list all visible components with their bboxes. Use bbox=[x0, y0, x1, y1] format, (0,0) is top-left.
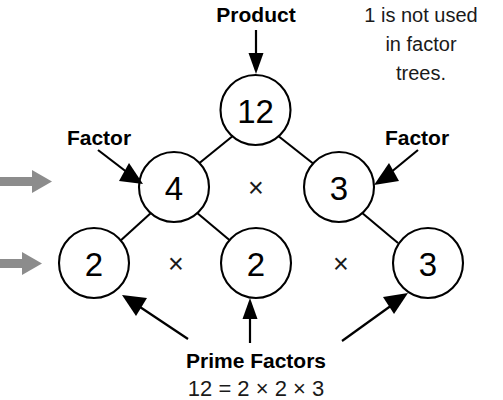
branch-four-to-first-two bbox=[119, 212, 152, 242]
note-line-1: 1 is not used bbox=[364, 4, 477, 26]
factor-tree-diagram: 12 4 3 × 2 2 3 × × Product bbox=[0, 0, 503, 400]
node-level2-left-value: 4 bbox=[165, 170, 183, 207]
multiplication-symbol-level2: × bbox=[248, 173, 264, 203]
factorization-equation: 12 = 2 × 2 × 3 bbox=[188, 376, 324, 400]
node-level3-first: 2 bbox=[59, 228, 129, 298]
node-level2-right-value: 3 bbox=[330, 170, 348, 207]
branch-root-to-right bbox=[277, 135, 315, 165]
prime-factors-label: Prime Factors bbox=[186, 349, 326, 372]
gray-arrow-row-two bbox=[0, 170, 52, 193]
factor-right-pointer-arrow bbox=[374, 150, 418, 185]
node-level3-third-value: 3 bbox=[419, 246, 437, 283]
factor-right-label: Factor bbox=[385, 126, 449, 149]
node-level3-second-value: 2 bbox=[247, 246, 265, 283]
diagram-canvas: 12 4 3 × 2 2 3 × × Product bbox=[0, 0, 503, 400]
multiplication-symbol-level3-left: × bbox=[168, 249, 184, 279]
node-root: 12 bbox=[221, 75, 291, 145]
note-line-3: trees. bbox=[396, 62, 446, 84]
product-label: Product bbox=[216, 3, 295, 26]
branch-four-to-second-two bbox=[196, 212, 233, 243]
node-level2-left: 4 bbox=[139, 152, 209, 222]
branch-root-to-left bbox=[197, 135, 234, 165]
multiplication-symbol-level3-right: × bbox=[333, 249, 349, 279]
factor-left-pointer-arrow bbox=[98, 150, 143, 184]
node-level3-second: 2 bbox=[221, 228, 291, 298]
gray-arrow-row-three bbox=[0, 252, 42, 275]
prime-factor-pointer-left bbox=[122, 295, 188, 339]
factor-left-label: Factor bbox=[67, 126, 131, 149]
note-line-2: in factor bbox=[385, 33, 456, 55]
product-pointer-arrow bbox=[249, 30, 264, 74]
node-level2-right: 3 bbox=[304, 152, 374, 222]
node-level3-first-value: 2 bbox=[85, 246, 103, 283]
gray-row-arrows bbox=[0, 170, 52, 275]
note-block: 1 is not used in factor trees. bbox=[364, 4, 477, 84]
node-root-value: 12 bbox=[237, 93, 274, 130]
prime-factor-pointer-right bbox=[342, 293, 408, 341]
branch-three-to-bottom-three bbox=[361, 212, 398, 243]
node-level3-third: 3 bbox=[393, 228, 463, 298]
prime-factor-pointer-middle bbox=[243, 298, 258, 343]
